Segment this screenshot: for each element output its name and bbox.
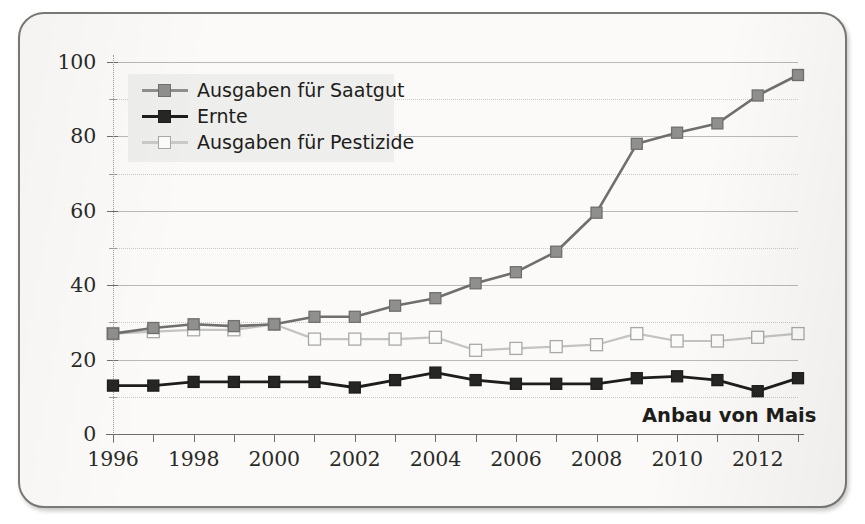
x-tick-2006 — [516, 434, 517, 442]
y-axis-labels: 020406080100 — [0, 0, 100, 524]
legend-item-pestizide: Ausgaben für Pestizide — [142, 129, 414, 155]
y-axis-label-60: 60 — [0, 199, 96, 223]
x-tick-2005 — [476, 434, 477, 442]
x-tick-2012 — [758, 434, 759, 442]
legend-marker-saatgut-icon — [142, 83, 188, 97]
legend-label-ernte: Ernte — [197, 105, 248, 127]
x-axis-label-1996: 1996 — [87, 447, 138, 471]
chart-page: 020406080100 Ausgaben für Saatgut Ernte — [0, 0, 865, 524]
y-axis-label-40: 40 — [0, 273, 96, 297]
legend-label-pestizide: Ausgaben für Pestizide — [197, 131, 414, 153]
x-tick-2011 — [717, 434, 718, 442]
legend-item-saatgut: Ausgaben für Saatgut — [142, 77, 404, 103]
legend-item-ernte: Ernte — [142, 103, 248, 129]
legend-marker-ernte-icon — [142, 109, 188, 123]
x-axis-label-2012: 2012 — [732, 447, 783, 471]
x-tick-2000 — [274, 434, 275, 442]
x-tick-1997 — [153, 434, 154, 442]
y-axis-label-20: 20 — [0, 348, 96, 372]
chart-annotation: Anbau von Mais — [642, 404, 816, 427]
x-axis-label-2008: 2008 — [571, 447, 622, 471]
gridline-20 — [113, 360, 798, 361]
x-tick-1998 — [194, 434, 195, 442]
x-tick-1999 — [234, 434, 235, 442]
gridline-70 — [113, 174, 798, 175]
x-axis-label-1998: 1998 — [168, 447, 219, 471]
x-axis-line — [106, 434, 804, 435]
y-axis-label-80: 80 — [0, 124, 96, 148]
y-axis-line — [113, 55, 114, 443]
x-tick-2009 — [637, 434, 638, 442]
legend-label-saatgut: Ausgaben für Saatgut — [197, 79, 404, 101]
x-tick-2007 — [556, 434, 557, 442]
x-axis-label-2000: 2000 — [248, 447, 299, 471]
x-tick-2008 — [597, 434, 598, 442]
x-tick-2002 — [355, 434, 356, 442]
x-tick-2013 — [798, 434, 799, 442]
gridline-100 — [113, 62, 798, 63]
x-tick-2004 — [435, 434, 436, 442]
legend-marker-pestizide-icon — [142, 135, 188, 149]
chart-legend: Ausgaben für Saatgut Ernte Ausgaben für … — [128, 74, 394, 162]
gridline-50 — [113, 248, 798, 249]
x-axis-label-2002: 2002 — [329, 447, 380, 471]
x-tick-2001 — [314, 434, 315, 442]
y-axis-label-100: 100 — [0, 50, 96, 74]
gridline-10 — [113, 397, 798, 398]
x-axis-label-2004: 2004 — [410, 447, 461, 471]
x-axis-label-2010: 2010 — [651, 447, 702, 471]
x-tick-2010 — [677, 434, 678, 442]
gridline-60 — [113, 211, 798, 212]
x-axis-label-2006: 2006 — [490, 447, 541, 471]
y-axis-label-0: 0 — [0, 422, 96, 446]
x-tick-2003 — [395, 434, 396, 442]
gridline-40 — [113, 285, 798, 286]
x-tick-1996 — [113, 434, 114, 442]
gridline-30 — [113, 322, 798, 323]
